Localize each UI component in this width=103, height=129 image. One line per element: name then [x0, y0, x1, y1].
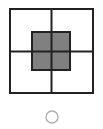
grid-diagram — [0, 0, 103, 129]
radio-button[interactable] — [46, 111, 58, 123]
